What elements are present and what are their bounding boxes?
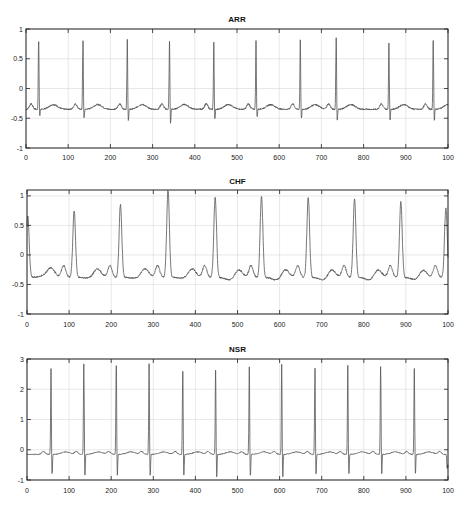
x-tick-label: 600 [274,487,286,494]
chart-title: NSR [229,345,246,354]
y-tick-label: 1 [19,26,23,33]
x-tick-label: 0 [25,321,29,328]
x-tick-label: 100 [442,487,454,494]
y-tick-label: 0 [20,251,24,258]
x-tick-label: 100 [63,321,75,328]
x-tick-label: 700 [316,154,328,161]
x-tick-label: 500 [232,321,244,328]
x-tick-label: 200 [105,487,117,494]
x-tick-label: 400 [190,487,202,494]
x-tick-label: 900 [400,154,412,161]
y-tick-label: 0 [19,85,23,92]
x-tick-label: 0 [25,487,29,494]
x-tick-label: 800 [358,321,370,328]
y-tick-label: 1 [20,192,24,199]
nsr-chart: 01002003004005006007008009001003210-1NSR [18,345,454,494]
x-tick-label: 100 [62,154,74,161]
x-tick-label: 400 [189,154,201,161]
x-tick-label: 800 [358,154,370,161]
x-tick-label: 400 [190,321,202,328]
y-tick-label: 0.5 [13,55,23,62]
y-tick-label: -1 [18,311,24,318]
x-tick-label: 600 [274,321,286,328]
arr-chart: 010020030040050060070080090010010.50-0.5… [11,15,454,161]
x-tick-label: 200 [105,321,117,328]
x-tick-label: 600 [273,154,285,161]
y-tick-label: -0.5 [12,281,24,288]
y-tick-label: 2 [20,386,24,393]
x-tick-label: 900 [400,321,412,328]
y-tick-label: 0.5 [14,222,24,229]
y-tick-label: 0 [20,446,24,453]
x-tick-label: 300 [147,321,159,328]
x-tick-label: 700 [316,321,328,328]
chart-title: ARR [228,15,246,24]
chf-chart: 010020030040050060070080090010010.50-0.5… [12,177,454,328]
y-tick-label: -1 [18,477,24,484]
ecg-figure: 010020030040050060070080090010010.50-0.5… [0,0,466,511]
x-tick-label: 800 [358,487,370,494]
x-tick-label: 300 [147,154,159,161]
x-tick-label: 900 [400,487,412,494]
x-tick-label: 200 [105,154,117,161]
x-tick-label: 500 [231,154,243,161]
y-tick-label: -0.5 [11,115,23,122]
x-tick-label: 100 [63,487,75,494]
y-tick-label: 3 [20,356,24,363]
x-tick-label: 500 [232,487,244,494]
y-tick-label: 1 [20,416,24,423]
x-tick-label: 0 [24,154,28,161]
x-tick-label: 700 [316,487,328,494]
x-tick-label: 100 [442,321,454,328]
y-tick-label: -1 [17,145,23,152]
x-tick-label: 100 [442,154,454,161]
x-tick-label: 300 [147,487,159,494]
chart-title: CHF [229,177,246,186]
